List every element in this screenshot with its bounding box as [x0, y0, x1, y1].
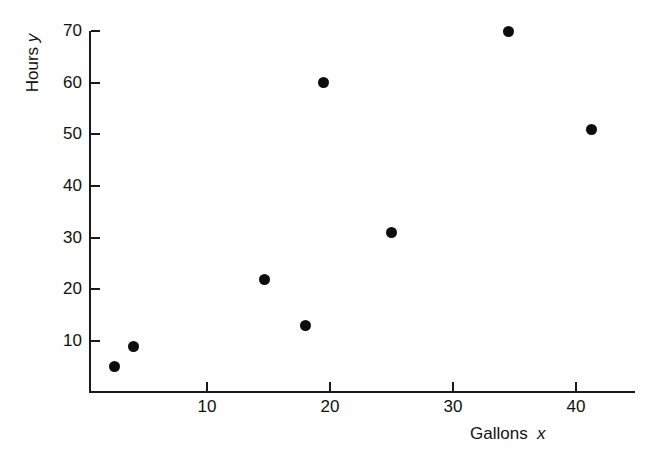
data-point — [503, 26, 514, 37]
data-point — [586, 124, 597, 135]
data-point — [259, 274, 270, 285]
data-point — [300, 320, 311, 331]
data-point — [109, 361, 120, 372]
data-point — [318, 77, 329, 88]
data-point — [386, 227, 397, 238]
data-point — [128, 341, 139, 352]
scatter-plot-figure: 10203040506070 10203040 Hours y Gallons … — [0, 0, 645, 466]
plot-area — [0, 0, 645, 466]
